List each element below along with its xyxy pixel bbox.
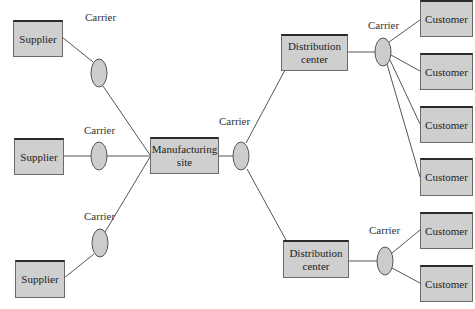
supplier-label: Supplier <box>19 33 56 46</box>
customer-label: Customer <box>425 13 468 26</box>
distribution-center-label: Distribution center <box>282 40 347 66</box>
carrier-node-3 <box>92 229 108 257</box>
supply-chain-diagram: Supplier Supplier Supplier Manufacturing… <box>0 0 475 309</box>
distribution-center-node-1: Distribution center <box>281 34 348 71</box>
customer-label: Customer <box>425 225 468 238</box>
customer-node-5: Customer <box>420 212 473 249</box>
connector-lines <box>0 0 475 309</box>
customer-label: Customer <box>425 119 468 132</box>
carrier-label-4: Carrier <box>219 115 250 127</box>
supplier-node-2: Supplier <box>14 138 64 175</box>
distribution-center-label: Distribution center <box>284 247 348 273</box>
carrier-label-5: Carrier <box>368 19 399 31</box>
customer-node-2: Customer <box>420 53 473 90</box>
customer-node-4: Customer <box>420 158 473 196</box>
carrier-node-6 <box>377 247 393 275</box>
supplier-label: Supplier <box>21 273 58 286</box>
supplier-label: Supplier <box>20 151 57 164</box>
carrier-node-5 <box>375 38 391 66</box>
carrier-node-4 <box>233 142 249 170</box>
carrier-label-2: Carrier <box>84 124 115 136</box>
distribution-center-node-2: Distribution center <box>283 240 349 278</box>
carrier-label-1: Carrier <box>85 11 116 23</box>
manufacturing-label: Manufacturing site <box>151 143 218 169</box>
manufacturing-site-node: Manufacturing site <box>150 137 219 174</box>
customer-node-3: Customer <box>420 106 473 143</box>
carrier-node-1 <box>91 59 107 87</box>
customer-label: Customer <box>425 278 468 291</box>
customer-node-1: Customer <box>420 0 473 37</box>
customer-node-6: Customer <box>420 265 473 302</box>
supplier-node-3: Supplier <box>15 260 65 298</box>
customer-label: Customer <box>425 171 468 184</box>
carrier-label-6: Carrier <box>369 224 400 236</box>
carrier-label-3: Carrier <box>84 210 115 222</box>
carrier-node-2 <box>91 142 107 170</box>
customer-label: Customer <box>425 66 468 79</box>
supplier-node-1: Supplier <box>13 20 63 57</box>
